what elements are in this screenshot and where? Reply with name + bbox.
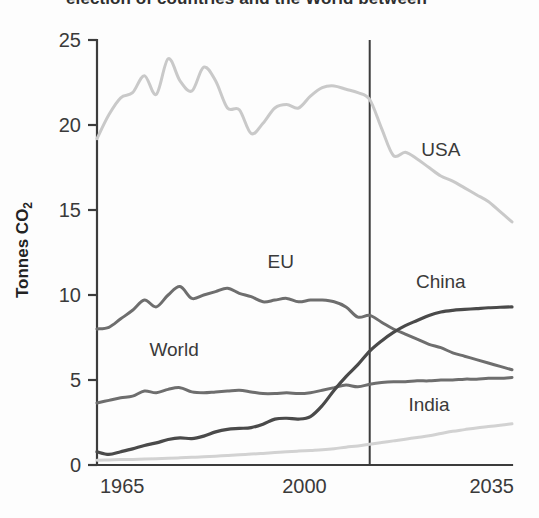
y-tick-label: 0 bbox=[70, 454, 81, 476]
x-tick-label: 1965 bbox=[100, 475, 145, 497]
y-tick-label: 15 bbox=[59, 199, 81, 221]
x-axis-ticks: 196520002035 bbox=[100, 475, 514, 497]
series-label-world: World bbox=[149, 339, 198, 360]
y-axis-ticks: 0510152025 bbox=[59, 29, 97, 476]
y-tick-label: 5 bbox=[70, 369, 81, 391]
y-tick-label: 10 bbox=[59, 284, 81, 306]
y-axis-title: Tonnes CO2 bbox=[13, 202, 35, 298]
series-labels: USAEUWorldChinaIndia bbox=[149, 139, 466, 415]
series-label-india: India bbox=[408, 394, 450, 415]
y-axis-title-main: Tonnes CO bbox=[13, 209, 32, 298]
series-label-china: China bbox=[416, 271, 466, 292]
x-tick-label: 2035 bbox=[470, 475, 515, 497]
series-label-eu: EU bbox=[268, 251, 294, 272]
series-line-world bbox=[97, 377, 512, 403]
series-lines bbox=[97, 59, 512, 461]
co2-per-capita-line-chart: Tonnes CO2 0510152025 196520002035 USAEU… bbox=[0, 0, 539, 518]
x-tick-label: 2000 bbox=[282, 475, 327, 497]
chart-svg: Tonnes CO2 0510152025 196520002035 USAEU… bbox=[0, 0, 539, 518]
y-tick-label: 20 bbox=[59, 114, 81, 136]
y-axis-title-subscript: 2 bbox=[21, 202, 35, 209]
y-tick-label: 25 bbox=[59, 29, 81, 51]
svg-text:Tonnes CO2: Tonnes CO2 bbox=[13, 202, 35, 298]
series-label-usa: USA bbox=[421, 139, 460, 160]
